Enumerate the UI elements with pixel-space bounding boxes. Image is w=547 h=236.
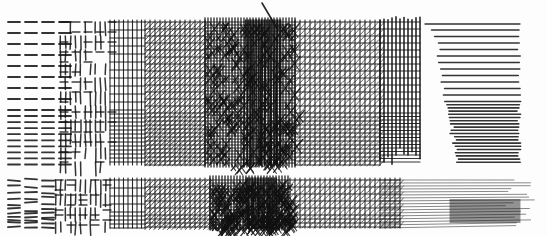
hatching-drawing	[0, 0, 547, 236]
hatching-study-artwork	[0, 0, 547, 236]
